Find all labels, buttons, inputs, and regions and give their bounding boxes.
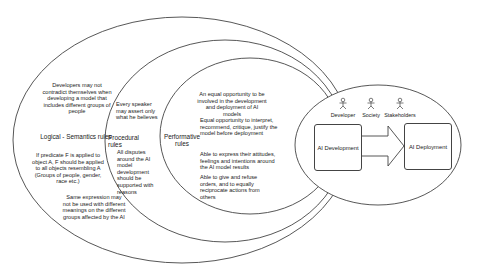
rule-performative-equal-involvement: An equal opportunity to be involved in t… xyxy=(196,91,268,117)
box-ai-development: AI Development xyxy=(314,124,362,171)
rule-procedural-assert-beliefs: Every speaker may assert only what he be… xyxy=(116,101,158,121)
layer-title-performative: Performative rules xyxy=(163,133,201,148)
rule-procedural-disputes-reasons: All disputes around the AI model develop… xyxy=(117,149,157,195)
rule-logical-same-expression: Same expression may not be used with dif… xyxy=(62,194,126,220)
layer-title-logical-semantics: Logical - Semantics rules xyxy=(36,133,116,140)
actor-label-stakeholders: Stakeholders xyxy=(380,112,420,118)
layer-title-procedural: Procedural rules xyxy=(108,134,144,149)
rule-logical-no-contradiction: Developers may not contradict themselves… xyxy=(42,82,112,115)
box-ai-deployment: AI Deployment xyxy=(404,123,452,170)
rule-logical-predicate-consistency: If predicate F is applied to object A, F… xyxy=(32,152,104,185)
rule-performative-interpret-critique: Equal opportunity to interpret, recommen… xyxy=(200,117,280,137)
rule-performative-give-refuse-orders: Able to give and refuse orders, and to e… xyxy=(200,174,266,200)
rule-performative-express-attitudes: Able to express their attitudes, feeling… xyxy=(200,151,280,171)
